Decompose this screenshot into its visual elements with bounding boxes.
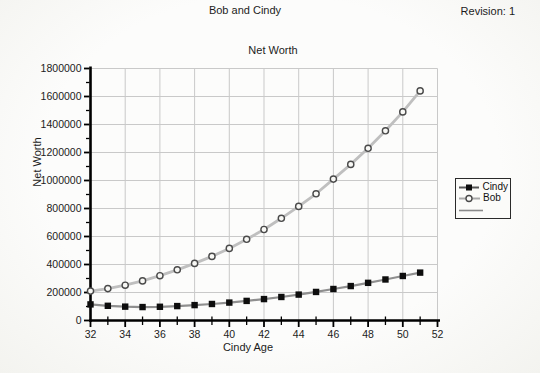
- data-point-bob: [261, 226, 267, 232]
- data-point-bob: [157, 273, 163, 279]
- data-point-cindy: [330, 286, 336, 292]
- chart-title: Net Worth: [248, 44, 297, 56]
- data-point-cindy: [382, 276, 388, 282]
- data-point-bob: [122, 282, 128, 288]
- data-point-cindy: [139, 304, 145, 310]
- y-tick-label: 800000: [46, 202, 81, 214]
- x-axis-title: Cindy Age: [223, 341, 273, 353]
- y-tick-label: 1000000: [41, 174, 82, 186]
- data-point-bob: [209, 253, 215, 259]
- data-point-cindy: [105, 303, 111, 309]
- y-tick-label: 1400000: [41, 118, 82, 130]
- legend-item-cindy: Cindy: [459, 182, 508, 192]
- x-tick-label: 50: [397, 328, 409, 340]
- x-tick-label: 48: [362, 328, 374, 340]
- legend-label-bob: Bob: [483, 193, 501, 203]
- chart-legend: Cindy Bob: [455, 178, 511, 219]
- data-point-cindy: [243, 298, 249, 304]
- line-swatch-icon: [459, 205, 483, 214]
- x-tick-label: 46: [328, 328, 340, 340]
- x-tick-label: 40: [223, 328, 235, 340]
- x-tick-label: 42: [258, 328, 270, 340]
- cindy-square-marker-icon: [459, 183, 479, 192]
- data-point-cindy: [296, 291, 302, 297]
- y-tick-label: 600000: [46, 230, 81, 242]
- y-axis-title: Net Worth: [31, 137, 43, 186]
- data-point-bob: [400, 109, 406, 115]
- data-point-bob: [226, 245, 232, 251]
- x-tick-label: 52: [432, 328, 444, 340]
- y-tick-label: 1600000: [41, 90, 82, 102]
- data-point-cindy: [365, 280, 371, 286]
- data-point-cindy: [174, 303, 180, 309]
- data-point-cindy: [122, 303, 128, 309]
- data-point-bob: [244, 236, 250, 242]
- legend-item-bob: Bob: [459, 193, 508, 203]
- data-point-bob: [278, 215, 284, 221]
- x-tick-label: 32: [85, 328, 97, 340]
- data-point-cindy: [191, 302, 197, 308]
- data-point-bob: [296, 203, 302, 209]
- data-point-cindy: [209, 301, 215, 307]
- data-point-bob: [174, 267, 180, 273]
- data-point-bob: [382, 128, 388, 134]
- data-point-cindy: [348, 283, 354, 289]
- y-tick-label: 0: [76, 314, 82, 326]
- document-page: Bob and Cindy Revision: 1 02000004000006…: [0, 0, 540, 373]
- data-point-bob: [365, 145, 371, 151]
- data-point-bob: [417, 88, 423, 94]
- data-point-cindy: [400, 273, 406, 279]
- legend-label-cindy: Cindy: [482, 182, 508, 192]
- data-point-cindy: [226, 299, 232, 305]
- y-tick-label: 1800000: [41, 62, 82, 74]
- data-point-bob: [87, 288, 93, 294]
- data-point-cindy: [261, 296, 267, 302]
- y-tick-label: 400000: [46, 258, 81, 270]
- data-point-cindy: [313, 289, 319, 295]
- data-point-bob: [313, 191, 319, 197]
- data-point-cindy: [278, 294, 284, 300]
- x-tick-label: 38: [189, 328, 201, 340]
- legend-item-unnamed-series: [459, 204, 508, 214]
- data-point-bob: [105, 285, 111, 291]
- data-point-bob: [330, 176, 336, 182]
- x-tick-label: 44: [293, 328, 305, 340]
- data-point-bob: [348, 161, 354, 167]
- data-point-cindy: [87, 301, 93, 307]
- bob-circle-marker-icon: [459, 194, 480, 203]
- series-line-bob: [91, 91, 421, 291]
- data-point-cindy: [157, 304, 163, 310]
- x-tick-label: 34: [119, 328, 131, 340]
- data-point-bob: [192, 260, 198, 266]
- y-tick-label: 1200000: [41, 146, 82, 158]
- data-point-cindy: [417, 269, 423, 275]
- y-tick-label: 200000: [46, 286, 81, 298]
- data-point-bob: [139, 278, 145, 284]
- series-line-cindy: [91, 273, 421, 307]
- x-tick-label: 36: [154, 328, 166, 340]
